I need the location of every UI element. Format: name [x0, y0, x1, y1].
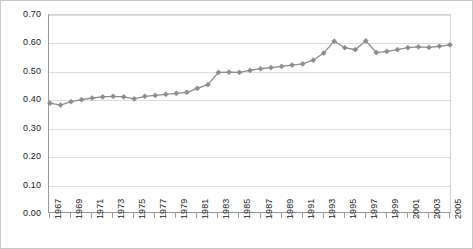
x-axis-tick-label: 1991	[306, 199, 316, 219]
x-axis-tick-mark	[165, 213, 166, 216]
x-axis-tick-label: 1975	[137, 199, 147, 219]
x-axis-tick-mark	[228, 213, 229, 216]
x-axis-tick-mark	[81, 213, 82, 216]
x-axis-tick-mark	[60, 213, 61, 216]
x-axis-tick-mark	[49, 213, 50, 218]
x-axis-tick-mark	[354, 213, 355, 216]
x-axis-tick-label: 1977	[158, 199, 168, 219]
x-axis-tick-mark	[417, 213, 418, 216]
x-axis-tick-label: 1967	[53, 199, 63, 219]
x-axis-tick-mark	[281, 213, 282, 218]
x-axis-tick-mark	[386, 213, 387, 218]
x-axis-tick-mark	[175, 213, 176, 218]
x-axis-tick-label: 1983	[221, 199, 231, 219]
x-axis-tick-label: 1993	[327, 199, 337, 219]
x-axis-tick-mark	[270, 213, 271, 216]
x-axis-tick-label: 1995	[348, 199, 358, 219]
x-axis-tick-label: 1981	[200, 199, 210, 219]
x-axis-labels: 1967196919711973197519771979198119831985…	[1, 1, 473, 249]
x-axis-tick-label: 1979	[179, 199, 189, 219]
x-axis-tick-mark	[449, 213, 450, 218]
x-axis-tick-mark	[333, 213, 334, 216]
x-axis-tick-mark	[312, 213, 313, 216]
x-axis-tick-mark	[207, 213, 208, 216]
x-axis-tick-mark	[438, 213, 439, 216]
x-axis-tick-mark	[91, 213, 92, 218]
x-axis-tick-label: 1999	[390, 199, 400, 219]
x-axis-tick-mark	[154, 213, 155, 218]
x-axis-tick-label: 1989	[285, 199, 295, 219]
x-axis-tick-mark	[70, 213, 71, 218]
x-axis-tick-mark	[112, 213, 113, 218]
x-axis-tick-mark	[260, 213, 261, 218]
x-axis-tick-mark	[123, 213, 124, 216]
x-axis-tick-label: 1969	[74, 199, 84, 219]
x-axis-tick-label: 1973	[116, 199, 126, 219]
x-axis-tick-mark	[375, 213, 376, 216]
x-axis-tick-mark	[302, 213, 303, 218]
chart-frame: 0.700.600.500.400.300.200.100.00 1967196…	[0, 0, 473, 249]
x-axis-tick-mark	[396, 213, 397, 216]
x-axis-tick-mark	[323, 213, 324, 218]
x-axis-tick-mark	[133, 213, 134, 218]
x-axis-tick-mark	[365, 213, 366, 218]
x-axis-tick-mark	[196, 213, 197, 218]
x-axis-tick-label: 1987	[264, 199, 274, 219]
x-axis-tick-mark	[102, 213, 103, 216]
x-axis-tick-mark	[344, 213, 345, 218]
x-axis-tick-mark	[249, 213, 250, 216]
x-axis-tick-mark	[407, 213, 408, 218]
x-axis-tick-mark	[238, 213, 239, 218]
x-axis-tick-mark	[291, 213, 292, 216]
x-axis-tick-mark	[144, 213, 145, 216]
x-axis-tick-label: 1997	[369, 199, 379, 219]
x-axis-tick-label: 2003	[432, 199, 442, 219]
x-axis-tick-label: 2001	[411, 199, 421, 219]
x-axis-tick-mark	[186, 213, 187, 216]
x-axis-tick-label: 1971	[95, 199, 105, 219]
x-axis-tick-mark	[217, 213, 218, 218]
x-axis-tick-label: 2005	[453, 199, 463, 219]
x-axis-tick-label: 1985	[242, 199, 252, 219]
x-axis-tick-mark	[428, 213, 429, 218]
